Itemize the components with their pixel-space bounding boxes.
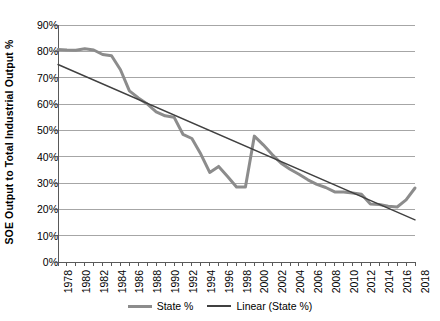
x-axis-tick-label: 1998 xyxy=(241,270,253,293)
x-axis-tick-label: 2018 xyxy=(419,270,431,293)
x-axis-tick-label: 2016 xyxy=(401,270,413,293)
chart-legend: State % Linear (State %) xyxy=(0,296,440,316)
gridlines xyxy=(58,25,415,262)
x-axis-tick-label: 2006 xyxy=(312,270,324,293)
x-axis-tick-label: 1980 xyxy=(80,270,92,293)
axis-lines xyxy=(54,25,415,262)
x-axis-tick-label: 1996 xyxy=(223,270,235,293)
x-axis-tick-label: 1986 xyxy=(133,270,145,293)
legend-item-linear[interactable]: Linear (State %) xyxy=(207,300,312,312)
trendline-path xyxy=(58,65,415,220)
x-axis-tick-label: 1994 xyxy=(205,270,217,293)
x-axis-tick-label: 2004 xyxy=(294,270,306,293)
x-axis-tick-label: 1988 xyxy=(151,270,163,293)
x-axis-tick-label: 1984 xyxy=(116,270,128,293)
x-axis-tick-label: 1992 xyxy=(187,270,199,293)
x-axis-tick-label: 2000 xyxy=(258,270,270,293)
legend-label-state: State % xyxy=(157,300,194,312)
x-axis-ticks xyxy=(58,262,415,266)
x-axis-tick-label: 1990 xyxy=(169,270,181,293)
x-axis-tick-label: 2012 xyxy=(365,270,377,293)
legend-label-linear: Linear (State %) xyxy=(236,300,312,312)
x-axis-tick-label: 2014 xyxy=(383,270,395,293)
chart-container: SOE Output to Total Industrial Output % … xyxy=(0,0,440,321)
x-axis-tick-label: 1978 xyxy=(62,270,74,293)
x-axis-tick-label: 2008 xyxy=(330,270,342,293)
series-layer xyxy=(58,49,415,220)
x-axis-tick-label: 2010 xyxy=(348,270,360,293)
legend-line-icon-linear xyxy=(207,305,231,306)
legend-item-state[interactable]: State % xyxy=(128,300,194,312)
x-axis-tick-label: 2002 xyxy=(276,270,288,293)
x-axis-tick-label: 1982 xyxy=(98,270,110,293)
legend-line-icon-state xyxy=(128,305,152,308)
